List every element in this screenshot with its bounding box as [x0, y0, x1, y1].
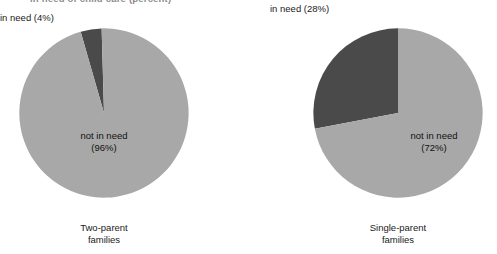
- chart-panel-single-parent: in need (28%) not in need (72%) Single-p…: [286, 0, 497, 254]
- chart-panel-two-parent: in need (4%) not in need (96%) Two-paren…: [0, 0, 232, 254]
- caption-line2: families: [12, 234, 196, 246]
- inner-label-line2: (96%): [91, 142, 116, 153]
- caption-line1: Single-parent: [306, 222, 490, 234]
- pie-svg-two-parent: [12, 21, 196, 205]
- inner-label-not-in-need: not in need (96%): [56, 130, 152, 154]
- pie-slice-not-in-need: [19, 28, 188, 197]
- inner-label-not-in-need: not in need (72%): [386, 130, 482, 154]
- pie-svg-single-parent: [306, 21, 490, 205]
- chart-caption-single-parent: Single-parent families: [306, 222, 490, 246]
- callout-label-in-need: in need (28%): [270, 3, 329, 14]
- inner-label-line1: not in need: [410, 130, 457, 141]
- pie-chart-figure: in need of child care (percent) in need …: [0, 0, 497, 254]
- caption-line2: families: [306, 234, 490, 246]
- inner-label-line1: not in need: [80, 130, 127, 141]
- chart-caption-two-parent: Two-parent families: [12, 222, 196, 246]
- pie-slice-in-need: [313, 28, 398, 129]
- pie-two-parent: [12, 21, 196, 205]
- inner-label-line2: (72%): [421, 142, 446, 153]
- pie-single-parent: [306, 21, 490, 205]
- caption-line1: Two-parent: [12, 222, 196, 234]
- callout-label-in-need: in need (4%): [0, 12, 54, 23]
